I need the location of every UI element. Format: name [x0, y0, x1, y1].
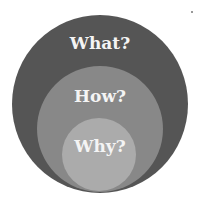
speck-artifact	[191, 11, 193, 13]
how-label: How?	[0, 86, 200, 106]
what-label: What?	[0, 33, 200, 53]
why-label: Why?	[0, 136, 200, 156]
